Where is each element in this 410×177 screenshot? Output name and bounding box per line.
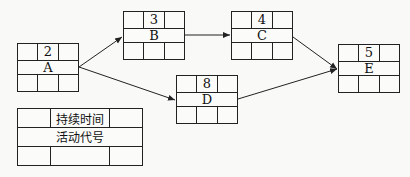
ef-cell bbox=[379, 45, 399, 61]
ef-cell bbox=[109, 109, 142, 127]
lf-cell bbox=[58, 75, 78, 91]
ls-cell bbox=[339, 76, 358, 92]
es-cell bbox=[124, 12, 143, 28]
duration: 8 bbox=[196, 76, 216, 92]
duration: 4 bbox=[251, 12, 271, 28]
activity-code: B bbox=[124, 29, 184, 43]
es-cell bbox=[18, 44, 37, 60]
edge-c-e bbox=[293, 37, 337, 69]
legend-duration-label: 持续时间 bbox=[50, 109, 110, 127]
node-d: 8 D bbox=[176, 75, 238, 124]
activity-code: C bbox=[232, 29, 292, 43]
slack-cell bbox=[251, 43, 271, 59]
slack-cell bbox=[50, 147, 110, 165]
lf-cell bbox=[109, 147, 142, 165]
legend-node: 持续时间 活动代号 bbox=[17, 108, 143, 166]
slack-cell bbox=[196, 107, 216, 123]
slack-cell bbox=[358, 76, 378, 92]
activity-code: E bbox=[339, 62, 399, 76]
es-cell bbox=[339, 45, 358, 61]
duration: 5 bbox=[358, 45, 378, 61]
edge-a-d bbox=[79, 67, 175, 100]
edge-a-b bbox=[79, 37, 122, 67]
node-b: 3 B bbox=[123, 11, 185, 60]
activity-code: A bbox=[18, 61, 78, 75]
ls-cell bbox=[18, 147, 50, 165]
lf-cell bbox=[379, 76, 399, 92]
ls-cell bbox=[124, 43, 143, 59]
ef-cell bbox=[272, 12, 292, 28]
slack-cell bbox=[37, 75, 57, 91]
activity-code: D bbox=[177, 93, 237, 107]
duration: 3 bbox=[143, 12, 163, 28]
lf-cell bbox=[272, 43, 292, 59]
node-e: 5 E bbox=[338, 44, 400, 93]
edge-d-e bbox=[238, 69, 337, 99]
lf-cell bbox=[164, 43, 184, 59]
ls-cell bbox=[232, 43, 251, 59]
es-cell bbox=[232, 12, 251, 28]
ef-cell bbox=[217, 76, 237, 92]
ef-cell bbox=[58, 44, 78, 60]
es-cell bbox=[18, 109, 50, 127]
duration: 2 bbox=[37, 44, 57, 60]
ls-cell bbox=[177, 107, 196, 123]
lf-cell bbox=[217, 107, 237, 123]
ef-cell bbox=[164, 12, 184, 28]
slack-cell bbox=[143, 43, 163, 59]
ls-cell bbox=[18, 75, 37, 91]
node-c: 4 C bbox=[231, 11, 293, 60]
node-a: 2 A bbox=[17, 43, 79, 92]
legend-activity-label: 活动代号 bbox=[18, 128, 142, 145]
es-cell bbox=[177, 76, 196, 92]
